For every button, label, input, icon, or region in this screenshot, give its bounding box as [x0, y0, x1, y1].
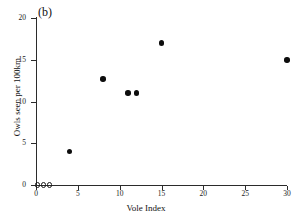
data-point-zero-counts: [41, 182, 47, 188]
x-tick-label: 10: [108, 190, 132, 198]
x-tick-label: 30: [275, 190, 292, 198]
y-tick-mark: [31, 18, 36, 19]
data-point-observed: [159, 40, 165, 46]
x-tick-label: 15: [150, 190, 174, 198]
scatter-plot-area: 05101520 051015202530: [0, 0, 292, 220]
x-tick-label: 20: [191, 190, 215, 198]
y-axis-line: [36, 17, 37, 186]
data-point-zero-counts: [35, 182, 41, 188]
data-point-observed: [134, 90, 140, 96]
x-tick-label: 5: [66, 190, 90, 198]
x-tick-label: 25: [233, 190, 257, 198]
data-point-observed: [67, 149, 73, 155]
y-tick-mark: [31, 143, 36, 144]
figure-panel-b: (b) 05101520 051015202530 Vole Index Owl…: [0, 0, 292, 220]
data-point-zero-counts: [47, 182, 53, 188]
x-tick-label: 0: [24, 190, 48, 198]
data-point-observed: [100, 76, 106, 82]
y-tick-label: 0: [0, 181, 26, 189]
x-axis-title: Vole Index: [0, 203, 292, 213]
y-tick-label: 20: [0, 14, 26, 22]
y-tick-mark: [31, 60, 36, 61]
y-tick-mark: [31, 102, 36, 103]
y-axis-title: Owls seen per 100km: [12, 22, 22, 172]
data-point-observed: [125, 90, 131, 96]
data-point-observed: [284, 57, 290, 63]
